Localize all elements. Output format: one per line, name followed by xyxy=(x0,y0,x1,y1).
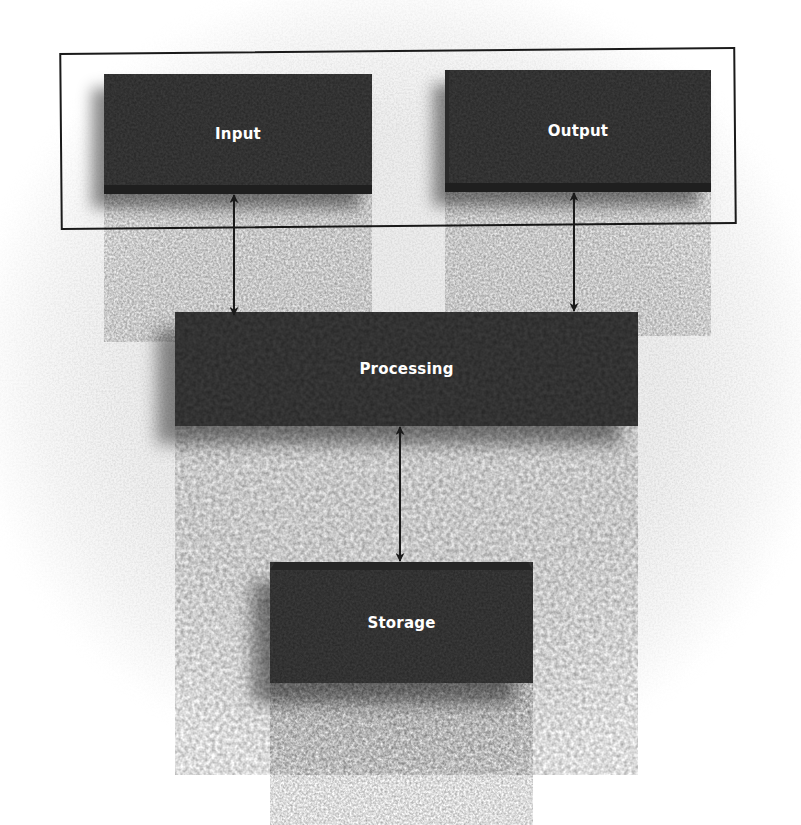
storage-node: Storage xyxy=(270,562,533,683)
input-node-bevel xyxy=(104,185,372,194)
input-node-label: Input xyxy=(215,125,261,143)
processing-node-label: Processing xyxy=(359,360,453,378)
input-node: Input xyxy=(104,74,372,194)
processing-node: Processing xyxy=(175,312,638,426)
storage-node-bevel xyxy=(270,562,533,570)
output-node-label: Output xyxy=(548,122,608,140)
storage-node-label: Storage xyxy=(367,614,435,632)
output-node-bevel xyxy=(445,183,711,192)
output-node-left-bevel xyxy=(445,70,449,192)
output-node: Output xyxy=(445,70,711,192)
